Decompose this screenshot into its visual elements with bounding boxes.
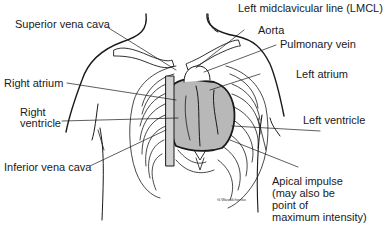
label-apical-impulse-line2: (may also be [272,187,335,199]
label-inferior-vena-cava: Inferior vena cava [4,161,91,173]
label-pulmonary-vein: Pulmonary vein [280,38,356,50]
label-aorta: Aorta [258,24,284,36]
label-apical-impulse-line4: maximum intensity) [272,211,367,223]
label-apical-impulse-line3: point of [272,199,308,211]
label-superior-vena-cava: Superior vena cava [15,18,110,30]
heart-shape [170,79,235,151]
vena-cava-tube [166,76,174,166]
label-left-atrium: Left atrium [296,68,348,80]
body-outline-right-shoulder [66,14,146,132]
label-right-ventricle-line2: ventricle [20,117,61,129]
left-clavicle [186,40,240,70]
right-clavicle [114,48,174,68]
label-lmcl: Left midclavicular line (LMCL) [238,2,383,14]
label-apical-impulse-line1: Apical impulse [272,175,343,187]
label-left-ventricle: Left ventricle [303,114,365,126]
label-right-atrium: Right atrium [4,77,63,89]
artist-signature: G.Wassilchenko [217,197,246,202]
